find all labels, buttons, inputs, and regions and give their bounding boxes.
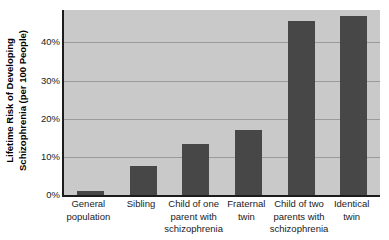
y-axis-title-line-1: Lifetime Risk of Developing [4,30,17,171]
y-tick-label: 20% [26,114,60,124]
bar [130,166,157,195]
y-tick-label: 40% [26,37,60,47]
x-tick-label-line: schizophrenia [266,223,333,236]
x-axis-tick-labels: GeneralpopulationSiblingChild of onepare… [62,198,382,240]
x-tick-label-line: Identical [318,198,385,211]
bar [182,144,209,196]
x-tick-label-line: twin [318,211,385,224]
bar [77,191,104,195]
x-tick-label-line: schizophrenia [160,223,227,236]
y-tick-label: 30% [26,76,60,86]
bar [235,130,262,195]
x-tick-label-line: population [55,211,122,224]
bar-chart: Lifetime Risk of Developing Schizophreni… [0,0,389,240]
bars-layer [64,10,380,195]
y-tick-label: 10% [26,152,60,162]
plot-area [62,10,380,197]
x-tick-label: Identicaltwin [318,198,385,223]
bar [340,16,367,195]
bar [288,21,315,195]
